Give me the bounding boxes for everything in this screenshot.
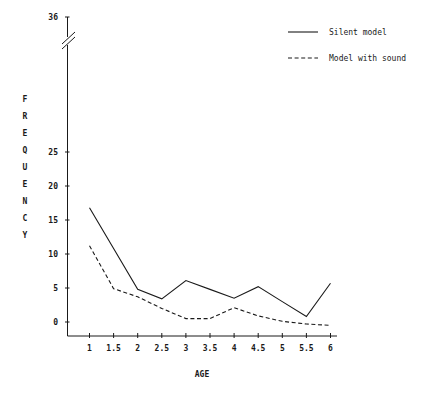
y-tick-label: 0 [53,318,58,327]
axis-break-icon [62,32,75,49]
y-tick-label: 20 [48,182,58,191]
x-tick-label: 1 [87,344,92,353]
x-tick-label: 4.5 [251,344,266,353]
y-axis-label-letter: R [23,112,28,121]
legend-label-silent-model: Silent model [329,28,387,37]
y-tick-label: 5 [53,284,58,293]
x-tick-label: 5 [280,344,285,353]
y-axis-label-letter: U [23,163,28,172]
chart-figure: FREQUENCY 051015202536 11.522.533.544.55… [0,0,421,397]
y-axis-label: FREQUENCY [23,95,28,240]
series-line-model-with-sound [90,246,331,326]
y-axis-ticks: 051015202536 [48,13,69,327]
y-tick-label: 25 [48,148,58,157]
y-tick-label: 15 [48,216,58,225]
y-tick-label: 10 [48,250,58,259]
y-tick-label: 36 [48,13,58,22]
x-tick-label: 2 [135,344,140,353]
series-line-silent-model [90,208,331,317]
y-axis-label-letter: C [23,214,28,223]
x-tick-label: 2.5 [155,344,170,353]
x-tick-label: 5.5 [299,344,314,353]
y-axis-label-letter: F [23,95,28,104]
x-tick-label: 6 [328,344,333,353]
x-tick-label: 1.5 [106,344,121,353]
x-axis-title: AGE [195,370,210,379]
legend-label-model-with-sound: Model with sound [329,54,406,63]
y-axis-label-letter: E [23,129,28,138]
y-axis-label-letter: Q [23,146,28,155]
y-axis-label-letter: N [23,197,28,206]
y-axis-label-letter: Y [23,231,28,240]
x-tick-label: 4 [232,344,237,353]
x-tick-label: 3 [183,344,188,353]
x-tick-label: 3.5 [203,344,218,353]
chart-legend: Silent model Model with sound [288,28,406,63]
frequency-by-age-line-chart: FREQUENCY 051015202536 11.522.533.544.55… [0,0,421,397]
y-axis-label-letter: E [23,180,28,189]
